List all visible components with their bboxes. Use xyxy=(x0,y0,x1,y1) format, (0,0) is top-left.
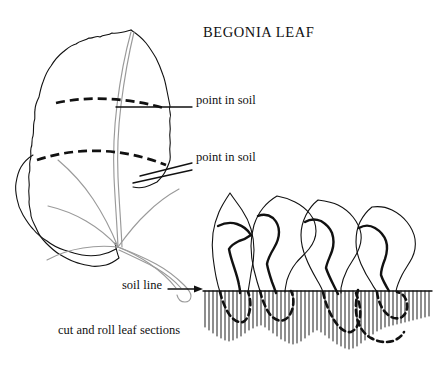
leaf-vein-main-shadow xyxy=(118,32,134,247)
figure-root: BEGONIA LEAF point in soil point in soil… xyxy=(0,0,439,377)
rolled-section-4-buried xyxy=(377,292,407,318)
leaf-petiole xyxy=(118,247,191,302)
leaf-outline xyxy=(29,30,131,266)
figure-title: BEGONIA LEAF xyxy=(203,24,315,41)
leaf-vein-4 xyxy=(58,160,118,247)
rolled-section-4-fold xyxy=(359,226,389,291)
rolled-section-1-fold xyxy=(218,223,251,293)
rolled-section-2 xyxy=(251,196,316,292)
illustration-canvas xyxy=(0,0,439,377)
label-point-in-soil-upper: point in soil xyxy=(196,93,256,108)
rolled-section-4 xyxy=(356,207,415,292)
rolled-section-1 xyxy=(212,193,254,292)
soil-line-arrow-head xyxy=(194,286,203,293)
leaf-vein-group xyxy=(47,32,179,288)
leaf-lobe-lower-left xyxy=(16,155,116,256)
lower-cut-line xyxy=(37,151,166,165)
rolled-section-2-fold xyxy=(258,215,279,293)
soil-hatching xyxy=(205,291,429,349)
label-soil-line: soil line xyxy=(122,278,162,293)
leaf-vein-main xyxy=(114,32,131,247)
leaf-vein-2 xyxy=(48,206,118,247)
label-point-in-soil-lower: point in soil xyxy=(196,150,256,165)
leader-line-lower-b xyxy=(133,170,192,183)
leaf-vein-5 xyxy=(118,189,179,247)
rolled-section-3-fold xyxy=(305,220,338,294)
figure-caption: cut and roll leaf sections xyxy=(58,323,180,338)
